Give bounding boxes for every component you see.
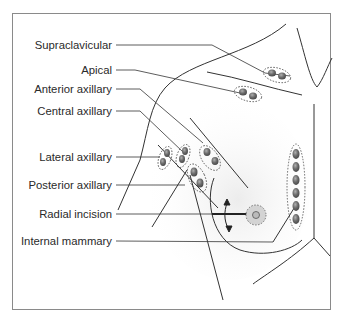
neck-right-curve xyxy=(297,28,332,87)
sternum-right-branch xyxy=(314,238,330,256)
lymph-node-diagram: Supraclavicular Apical Anterior axillary… xyxy=(0,0,342,319)
node-cluster-supraclavicular xyxy=(262,65,293,86)
tumor-marker xyxy=(246,205,266,225)
chest-shading xyxy=(150,100,310,280)
leader-apical xyxy=(116,70,240,93)
anatomy-drawing xyxy=(0,0,342,319)
